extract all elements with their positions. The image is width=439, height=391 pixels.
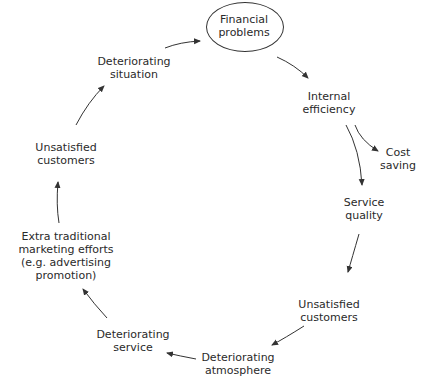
node-financial-problems: Financial problems	[218, 13, 269, 39]
node-line: Extra traditional	[18, 230, 113, 243]
node-deteriorating-situation: Deteriorating situation	[97, 55, 170, 81]
node-line: Service	[344, 196, 385, 209]
node-service-quality: Service quality	[344, 196, 385, 222]
node-line: problems	[218, 26, 269, 39]
node-line: Deteriorating	[96, 328, 169, 341]
node-line: Unsatisfied	[298, 298, 359, 311]
arrow-marketing-to-unsatisfied	[57, 182, 59, 223]
node-line: customers	[298, 311, 359, 324]
arrow-quality-to-unsatisfied	[348, 234, 359, 272]
arrow-efficiency-to-cost	[355, 125, 378, 151]
node-unsatisfied-customers-left: Unsatisfied customers	[35, 141, 96, 167]
node-line: Cost	[380, 146, 416, 159]
node-line: (e.g. advertising	[18, 256, 113, 269]
node-cost-saving: Cost saving	[380, 146, 416, 172]
node-line: Financial	[218, 13, 269, 26]
arrow-financial-to-efficiency	[277, 57, 308, 78]
node-line: quality	[344, 209, 385, 222]
node-deteriorating-service: Deteriorating service	[96, 328, 169, 354]
node-line: Internal	[303, 90, 356, 103]
node-line: atmosphere	[201, 364, 274, 377]
node-line: situation	[97, 68, 170, 81]
node-unsatisfied-customers-right: Unsatisfied customers	[298, 298, 359, 324]
node-line: promotion)	[18, 269, 113, 282]
node-line: Unsatisfied	[35, 141, 96, 154]
node-line: service	[96, 341, 169, 354]
arrow-atmosphere-to-service	[167, 353, 196, 359]
arrow-situation-to-financial	[165, 41, 200, 48]
node-internal-efficiency: Internal efficiency	[303, 90, 356, 116]
node-line: saving	[380, 159, 416, 172]
node-line: marketing efforts	[18, 243, 113, 256]
node-line: Deteriorating	[97, 55, 170, 68]
node-line: customers	[35, 154, 96, 167]
node-line: Deteriorating	[201, 351, 274, 364]
node-extra-marketing: Extra traditional marketing efforts (e.g…	[18, 230, 113, 282]
arrow-unsatisfied-to-situation	[76, 86, 104, 125]
node-line: efficiency	[303, 103, 356, 116]
node-deteriorating-atmosphere: Deteriorating atmosphere	[201, 351, 274, 377]
arrow-service-to-marketing	[83, 289, 107, 318]
arrow-unsatisfied-to-atmosphere	[272, 326, 304, 345]
